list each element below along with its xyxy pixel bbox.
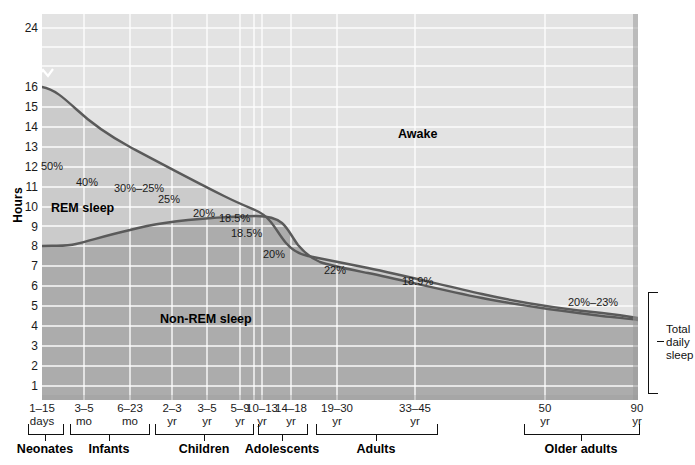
annotation-1: 40%: [76, 177, 98, 188]
y-tick-8: 8: [10, 240, 38, 252]
group-bracket-3: [258, 424, 308, 435]
x-tick-top-7: 14–18: [269, 402, 313, 415]
y-tick-7: 7: [10, 260, 38, 272]
annotation-7: 20%: [263, 249, 285, 260]
y-tick-6: 6: [10, 280, 38, 292]
y-tick-9: 9: [10, 221, 38, 233]
x-tick-top-1: 3–5: [62, 402, 106, 415]
group-tick-3: [282, 434, 283, 441]
group-label-4: Adults: [306, 443, 446, 456]
region-label-rem: REM sleep: [51, 202, 114, 215]
x-tick-top-8: 19–30: [315, 402, 359, 415]
bracket-stub: [657, 341, 664, 342]
tds-line-2: daily: [666, 336, 695, 349]
y-tick-4: 4: [10, 320, 38, 332]
y-axis-tick-labels: 2416151413121110987654321: [4, 0, 38, 465]
x-tick-top-0: 1–15: [20, 402, 64, 415]
y-tick-5: 5: [10, 300, 38, 312]
x-tick-top-9: 33–45: [393, 402, 437, 415]
region-label-non-rem: Non-REM sleep: [160, 313, 252, 326]
total-daily-sleep-label: Total daily sleep: [666, 323, 695, 362]
group-tick-2: [204, 434, 205, 441]
bracket-shape: [648, 292, 658, 394]
annotation-9: 18.9%: [402, 276, 433, 287]
total-daily-sleep-bracket: Total daily sleep: [648, 292, 695, 407]
chart-svg: [42, 14, 638, 400]
x-tick-top-10: 50: [523, 402, 567, 415]
sleep-across-lifespan-chart: Hours 2416151413121110987654321: [0, 0, 695, 465]
annotation-3: 25%: [158, 194, 180, 205]
y-tick-24: 24: [10, 22, 38, 34]
y-tick-15: 15: [10, 101, 38, 113]
tds-line-1: Total: [666, 323, 695, 336]
y-tick-3: 3: [10, 340, 38, 352]
y-tick-1: 1: [10, 380, 38, 392]
annotation-4: 20%: [193, 208, 215, 219]
group-bracket-5: [524, 424, 640, 435]
y-axis-break-icon: [38, 66, 54, 82]
group-bracket-1: [70, 424, 150, 435]
annotation-5: 18.5%: [219, 213, 250, 224]
group-bracket-0: [28, 424, 64, 435]
y-tick-13: 13: [10, 141, 38, 153]
x-tick-top-2: 6–23: [108, 402, 152, 415]
y-tick-14: 14: [10, 121, 38, 133]
group-tick-0: [45, 434, 46, 441]
y-tick-2: 2: [10, 360, 38, 372]
annotation-0: 50%: [41, 161, 63, 172]
group-tick-5: [581, 434, 582, 441]
y-tick-11: 11: [10, 181, 38, 193]
y-tick-12: 12: [10, 161, 38, 173]
plot-bottom-edge: [42, 395, 638, 400]
group-tick-1: [109, 434, 110, 441]
plot-area: [42, 14, 638, 400]
annotation-6: 18.5%: [231, 228, 262, 239]
group-tick-4: [376, 434, 377, 441]
annotation-2: 30%–25%: [114, 183, 164, 194]
group-label-5: Older adults: [511, 443, 651, 456]
annotation-8: 22%: [324, 265, 346, 276]
region-label-awake: Awake: [398, 128, 437, 141]
group-bracket-4: [316, 424, 438, 435]
tds-line-3: sleep: [666, 349, 695, 362]
annotation-10: 20%–23%: [568, 297, 618, 308]
age-group-brackets: NeonatesInfantsChildrenAdolescentsAdults…: [0, 424, 695, 465]
y-tick-16: 16: [10, 81, 38, 93]
plot-right-edge: [633, 14, 638, 400]
y-tick-10: 10: [10, 201, 38, 213]
